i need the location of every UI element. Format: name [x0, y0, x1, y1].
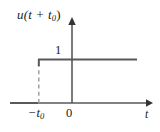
x-axis-arrowhead: [146, 99, 153, 107]
x-tick-negative-t0-subscript: 0: [40, 111, 44, 121]
y-axis-arrowhead: [68, 17, 75, 25]
x-tick-label-negative-t0: −t0: [28, 107, 44, 120]
y-axis-function-label: u(t + t0): [17, 8, 61, 22]
unit-step-function-figure: u(t + t0) 1 0 −t0 t: [0, 0, 160, 132]
y-tick-label-one: 1: [55, 44, 61, 57]
x-axis-label: t: [145, 109, 148, 121]
x-tick-negative-t0-main: −t: [28, 106, 40, 120]
y-axis-function-paren: ): [56, 7, 61, 22]
x-tick-label-origin: 0: [66, 107, 72, 120]
y-axis-function-expr: u(t + t: [17, 7, 52, 22]
